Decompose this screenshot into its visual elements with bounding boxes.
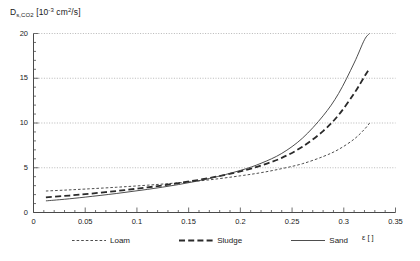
x-tick-label: 0 [19, 217, 49, 226]
x-tick-label: 0.05 [70, 217, 100, 226]
series-line-sand [46, 34, 370, 201]
x-tick-label: 0.25 [277, 217, 307, 226]
y-tick-label: 5 [8, 163, 28, 172]
legend-item-sand[interactable]: Sand [291, 236, 348, 245]
x-tick-label: 0.15 [174, 217, 204, 226]
x-tick-label: 0.3 [329, 217, 359, 226]
x-axis-title: ε [ ] [362, 233, 374, 242]
chart-figure: Ds,CO2 [10-3 cm2/s] 0510152000.050.10.15… [0, 0, 420, 261]
x-axis-units: [ ] [367, 233, 373, 242]
y-tick-label: 15 [8, 73, 28, 82]
legend-swatch-dotted [72, 236, 106, 245]
chart-legend: LoamSludgeSand [72, 230, 348, 250]
y-tick-label: 20 [8, 29, 28, 38]
legend-item-sludge[interactable]: Sludge [179, 236, 242, 245]
x-tick-label: 0.1 [122, 217, 152, 226]
x-axis-symbol: ε [362, 233, 365, 242]
legend-item-loam[interactable]: Loam [72, 236, 130, 245]
legend-label: Loam [110, 236, 130, 245]
legend-swatch-dashed [179, 236, 213, 245]
y-tick-label: 10 [8, 118, 28, 127]
legend-label: Sludge [217, 236, 242, 245]
x-tick-label: 0.2 [225, 217, 255, 226]
y-tick-label: 0 [8, 208, 28, 217]
series-line-sludge [46, 68, 370, 197]
legend-swatch-solid [291, 236, 325, 245]
x-tick-label: 0.35 [381, 217, 411, 226]
legend-label: Sand [329, 236, 348, 245]
